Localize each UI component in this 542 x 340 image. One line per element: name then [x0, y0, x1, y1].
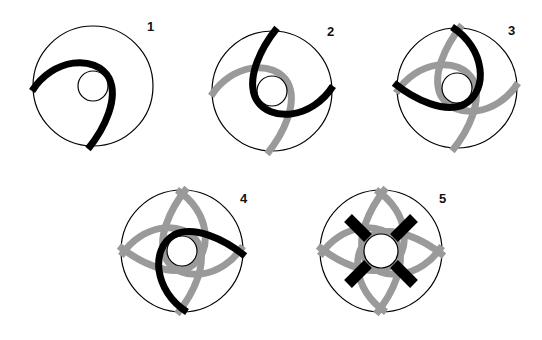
panel-label-1: 1: [147, 19, 154, 34]
panel-5: [318, 188, 444, 314]
panel-label-5: 5: [439, 191, 446, 206]
panel-4: [119, 188, 245, 314]
inner-circle: [364, 234, 398, 268]
panel-label-2: 2: [327, 24, 334, 39]
panel-2: [211, 28, 333, 154]
panel-label-3: 3: [508, 23, 515, 38]
panel-label-4: 4: [240, 191, 248, 206]
knot-construction-diagram: 1 2 3 4 5: [0, 0, 542, 340]
inner-circle: [78, 71, 108, 101]
panel-3: [394, 25, 518, 151]
panel-1: [32, 26, 153, 149]
